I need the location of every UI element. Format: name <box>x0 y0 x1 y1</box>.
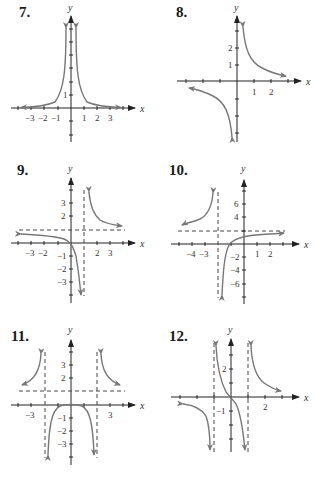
curve-right <box>76 28 121 108</box>
x-tick-label: 1 <box>82 113 87 123</box>
y-tick-label: −3 <box>57 277 67 287</box>
graph-10: −4 −3 1 2 6 4 −2 −4 −6 x y <box>171 163 309 304</box>
y-tick-label: 4 <box>234 212 239 222</box>
y-tick-label: 1 <box>63 90 68 100</box>
curve-right <box>243 27 286 76</box>
y-axis-label: y <box>67 2 73 13</box>
y-axis-label: y <box>240 163 246 174</box>
y-tick-label: 2 <box>61 211 66 221</box>
x-tick-label: 2 <box>268 249 273 259</box>
x-tick-label: −3 <box>25 410 35 420</box>
curve-left <box>189 88 232 137</box>
graph-8: 1 2 1 2 x y <box>177 2 311 142</box>
x-tick-label: −3 <box>25 248 35 258</box>
y-tick-label: −1 <box>57 251 67 261</box>
y-tick-label: −4 <box>230 265 240 275</box>
y-tick-label: −1 <box>57 413 67 423</box>
x-axis-label: x <box>303 239 309 250</box>
x-axis-label: x <box>303 392 309 403</box>
y-tick-label: 6 <box>234 199 239 209</box>
x-tick-label: 3 <box>108 113 113 123</box>
graph-11: −3 3 3 2 −1 −2 −3 x y <box>11 324 145 465</box>
y-tick-label: −2 <box>57 426 67 436</box>
x-tick-label: 2 <box>95 248 100 258</box>
x-tick-label: −2 <box>38 113 48 123</box>
y-tick-label: −6 <box>230 279 240 289</box>
x-tick-label: 2 <box>269 87 274 97</box>
x-tick-label: −3 <box>199 249 209 259</box>
x-tick-label: 2 <box>95 113 100 123</box>
y-tick-label: 2 <box>228 43 233 53</box>
x-tick-label: 2 <box>263 402 268 412</box>
x-tick-label: −2 <box>38 248 48 258</box>
y-axis-label: y <box>233 2 239 13</box>
curve-left <box>183 404 210 450</box>
y-tick-label: 2 <box>222 364 227 374</box>
curve-right <box>89 192 122 226</box>
curve-upper-right <box>101 354 120 385</box>
x-axis-label: x <box>139 103 145 114</box>
x-tick-label: −4 <box>186 249 196 259</box>
x-axis-label: x <box>139 238 145 249</box>
y-tick-label: −3 <box>57 439 67 449</box>
curve-left <box>182 193 213 225</box>
curve-upper-left <box>22 354 41 385</box>
y-axis-label: y <box>67 163 73 174</box>
y-tick-label: 3 <box>61 198 66 208</box>
x-tick-label: 1 <box>255 249 260 259</box>
y-axis-label: y <box>67 324 73 335</box>
x-tick-label: −3 <box>25 113 35 123</box>
y-tick-label: −2 <box>57 264 67 274</box>
graph-7: −3 −2 −1 1 2 3 1 x y <box>11 2 145 142</box>
y-tick-label: 1 <box>228 60 233 70</box>
x-tick-label: 3 <box>108 248 113 258</box>
graph-9: −3 −2 2 3 3 2 −1 −2 −3 x y <box>11 163 145 303</box>
y-axis-label: y <box>227 324 233 335</box>
x-tick-label: −1 <box>51 113 61 123</box>
curve-right <box>251 346 281 391</box>
x-tick-label: 1 <box>252 87 257 97</box>
y-tick-label: 2 <box>61 373 66 383</box>
curve-left <box>21 28 66 108</box>
x-axis-label: x <box>139 400 145 411</box>
y-tick-label: 3 <box>61 360 66 370</box>
y-tick-label: −1 <box>216 406 226 416</box>
y-tick-label: −2 <box>230 252 240 262</box>
x-tick-label: 3 <box>108 410 113 420</box>
graphs-canvas: −3 −2 −1 1 2 3 1 x y 1 2 1 2 x y <box>0 0 315 486</box>
x-axis-label: x <box>305 76 311 87</box>
graph-12: 2 2 −1 x y <box>171 324 309 452</box>
